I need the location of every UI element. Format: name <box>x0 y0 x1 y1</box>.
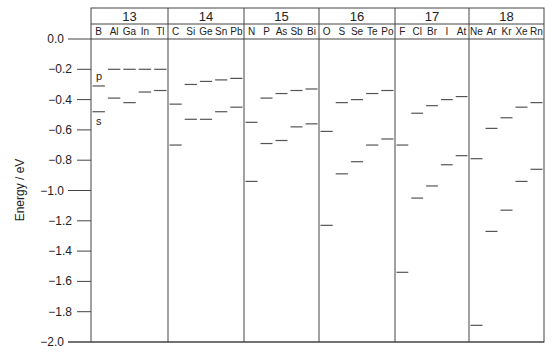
annotation-s: s <box>96 115 102 127</box>
element-label: In <box>141 26 149 37</box>
group-header-15: 15 <box>274 9 288 24</box>
element-label: Si <box>186 26 195 37</box>
element-label: I <box>445 26 448 37</box>
y-axis: 0.0−0.2−0.4−0.6−0.8−1.0−1.2−1.4−1.6−1.8−… <box>40 32 91 349</box>
element-label: Se <box>351 26 364 37</box>
element-label: P <box>263 26 270 37</box>
element-label: Ge <box>199 26 213 37</box>
element-label: Sn <box>215 26 227 37</box>
y-tick-label: −1.2 <box>48 214 72 228</box>
y-axis-label: Energy / eV <box>13 159 27 222</box>
element-label: Bi <box>307 26 316 37</box>
energy-levels <box>93 69 543 325</box>
frame-border <box>91 8 544 342</box>
y-tick-label: −0.4 <box>48 93 72 107</box>
y-tick-label: −2.0 <box>40 335 64 349</box>
element-label: Al <box>110 26 119 37</box>
element-label: Ne <box>470 26 483 37</box>
y-tick-label: −0.2 <box>48 62 72 76</box>
element-label: Po <box>381 26 394 37</box>
element-label: N <box>248 26 255 37</box>
element-label: As <box>276 26 288 37</box>
element-label: Xe <box>515 26 528 37</box>
annotation-p: p <box>96 70 102 82</box>
annotations: ps <box>96 70 102 127</box>
group-header-18: 18 <box>499 9 513 24</box>
y-tick-label: −1.0 <box>40 184 64 198</box>
group-header-16: 16 <box>350 9 364 24</box>
element-label: Te <box>367 26 378 37</box>
element-label: Ga <box>123 26 137 37</box>
element-label: Pb <box>230 26 243 37</box>
element-label: Cl <box>412 26 421 37</box>
element-label: Kr <box>502 26 513 37</box>
group-header-13: 13 <box>122 9 136 24</box>
y-tick-label: −1.4 <box>48 244 72 258</box>
element-label: F <box>399 26 405 37</box>
y-tick-label: 0.0 <box>47 32 64 46</box>
element-label: Tl <box>156 26 164 37</box>
element-label: B <box>95 26 102 37</box>
group-header-14: 14 <box>199 9 213 24</box>
element-label: At <box>457 26 467 37</box>
plot-frame <box>68 8 544 342</box>
group-header-17: 17 <box>425 9 439 24</box>
element-label: O <box>323 26 331 37</box>
element-label: Rn <box>530 26 543 37</box>
y-tick-label: −0.6 <box>48 123 72 137</box>
y-tick-label: −1.8 <box>48 305 72 319</box>
element-label: Ar <box>487 26 498 37</box>
y-tick-label: −1.6 <box>48 274 72 288</box>
element-label: C <box>172 26 179 37</box>
element-label: Br <box>427 26 438 37</box>
element-label: Sb <box>290 26 303 37</box>
chart-canvas: 0.0−0.2−0.4−0.6−0.8−1.0−1.2−1.4−1.6−1.8−… <box>0 0 559 358</box>
energy-level-chart: 0.0−0.2−0.4−0.6−0.8−1.0−1.2−1.4−1.6−1.8−… <box>0 0 559 358</box>
y-tick-label: −0.8 <box>48 153 72 167</box>
element-label: S <box>338 26 345 37</box>
